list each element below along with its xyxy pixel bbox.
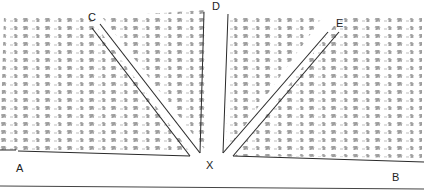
label-b: B (392, 171, 399, 183)
label-x: X (206, 159, 214, 171)
label-e: E (336, 17, 343, 29)
label-c: C (88, 11, 96, 23)
diagram-canvas: C D E A X B (0, 0, 424, 192)
label-d: D (212, 0, 220, 12)
label-a: A (16, 162, 24, 174)
bottom-rule (0, 186, 424, 189)
